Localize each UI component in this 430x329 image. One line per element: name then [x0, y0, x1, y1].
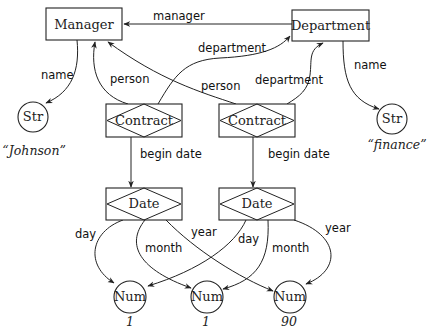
edge-date-left-day: [95, 220, 123, 283]
node-str-right-label: Str: [382, 111, 403, 126]
diagram-canvas: manager name name person department pers…: [0, 0, 430, 329]
node-department-label: Department: [291, 18, 371, 33]
edge-label-contract-left-department: department: [198, 41, 267, 55]
value-num-2: 1: [202, 314, 210, 329]
node-str-left-label: Str: [23, 109, 44, 124]
node-manager[interactable]: Manager: [46, 8, 122, 40]
diagram-svg: manager name name person department pers…: [0, 0, 430, 329]
edge-label-contract-right-person: person: [201, 79, 240, 93]
node-str-johnson[interactable]: Str: [18, 102, 48, 132]
node-date-right[interactable]: Date: [219, 188, 295, 220]
node-contract-right-label: Contract: [228, 113, 287, 128]
node-num-2[interactable]: Num: [191, 281, 223, 313]
edge-label-date-right-day: day: [238, 232, 259, 246]
node-num-3[interactable]: Num: [274, 281, 306, 313]
edge-label-contract-left-begin-date: begin date: [140, 147, 202, 161]
value-finance: “finance”: [367, 137, 426, 152]
edge-label-manager-name: name: [41, 68, 74, 82]
node-date-right-label: Date: [241, 196, 272, 211]
edge-label-contract-left-person: person: [110, 72, 149, 86]
edge-label-department-name: name: [354, 58, 387, 72]
value-num-3: 90: [281, 314, 297, 329]
edge-label-date-right-year: year: [325, 221, 351, 235]
node-num-3-label: Num: [274, 289, 306, 304]
node-num-2-label: Num: [191, 289, 223, 304]
node-manager-label: Manager: [54, 17, 114, 32]
edge-label-contract-right-department: department: [255, 73, 324, 87]
node-contract-left[interactable]: Contract: [106, 104, 182, 137]
edge-label-date-left-year: year: [191, 225, 217, 239]
edge-label-date-right-month: month: [272, 241, 309, 255]
edge-department-name: [343, 41, 379, 109]
edge-labels: manager name name person department pers…: [41, 9, 387, 255]
edge-label-contract-right-begin-date: begin date: [268, 147, 330, 161]
node-date-left-label: Date: [128, 196, 159, 211]
node-str-finance[interactable]: Str: [377, 104, 407, 134]
node-num-1-label: Num: [114, 289, 146, 304]
edge-label-date-left-day: day: [75, 227, 96, 241]
node-contract-left-label: Contract: [115, 113, 174, 128]
node-contract-right[interactable]: Contract: [219, 104, 295, 137]
edge-label-date-left-month: month: [145, 241, 182, 255]
value-johnson: “Johnson”: [2, 143, 66, 158]
edge-label-manager: manager: [153, 9, 205, 23]
edge-date-left-year: [166, 220, 273, 291]
node-date-left[interactable]: Date: [106, 188, 182, 220]
node-department[interactable]: Department: [291, 10, 371, 41]
node-num-1[interactable]: Num: [114, 281, 146, 313]
value-num-1: 1: [126, 314, 134, 329]
